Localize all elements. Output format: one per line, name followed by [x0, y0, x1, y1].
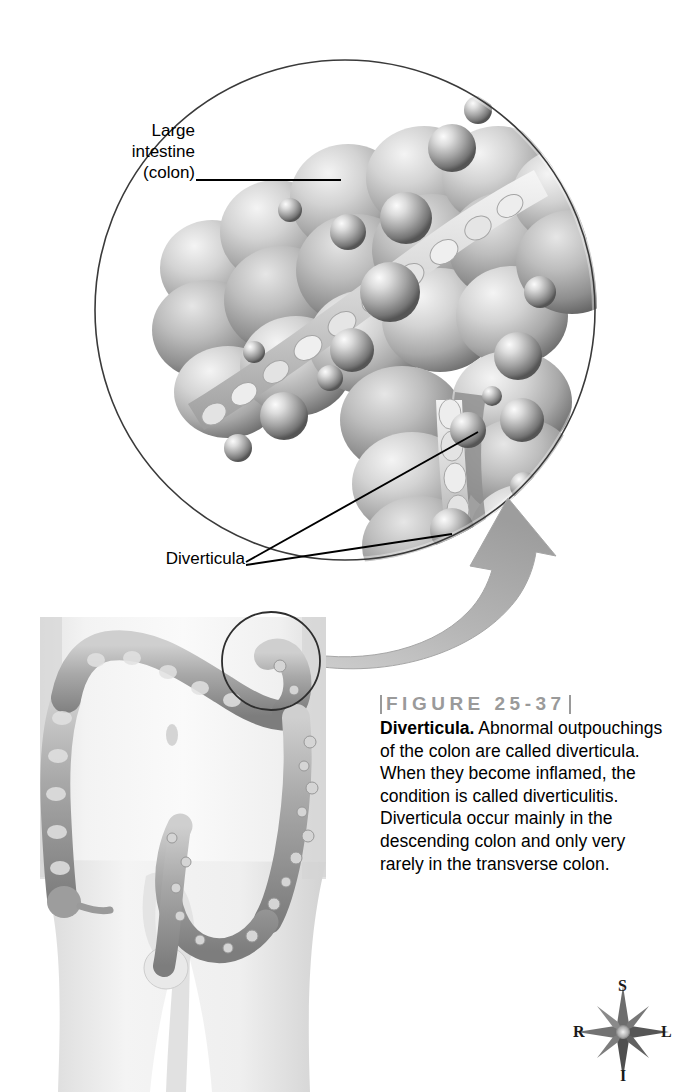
figure-rule-right [569, 695, 571, 714]
figure-caption-term: Diverticula. [380, 718, 474, 738]
torso-diagram [40, 617, 326, 1092]
compass-superior-label: S [618, 978, 627, 994]
figure-caption-block: FIGURE 25-37 Diverticula. Abnormal outpo… [380, 693, 670, 875]
figure-caption-text: Diverticula. Abnormal outpouchings of th… [380, 717, 670, 875]
figure-number-text: FIGURE 25-37 [382, 693, 569, 715]
label-diverticula: Diverticula [80, 548, 245, 569]
label-large-intestine: Large intestine (colon) [30, 120, 195, 183]
figure-number-heading: FIGURE 25-37 [380, 693, 670, 715]
anatomical-orientation-compass: S I R L [573, 978, 673, 1086]
figure-caption-description: Abnormal outpouchings of the colon are c… [380, 718, 662, 874]
compass-right-label: R [573, 1024, 585, 1040]
figure-page: Large intestine (colon) Diverticula FIGU… [0, 0, 678, 1092]
compass-inferior-label: I [620, 1068, 626, 1084]
compass-left-label: L [661, 1024, 672, 1040]
